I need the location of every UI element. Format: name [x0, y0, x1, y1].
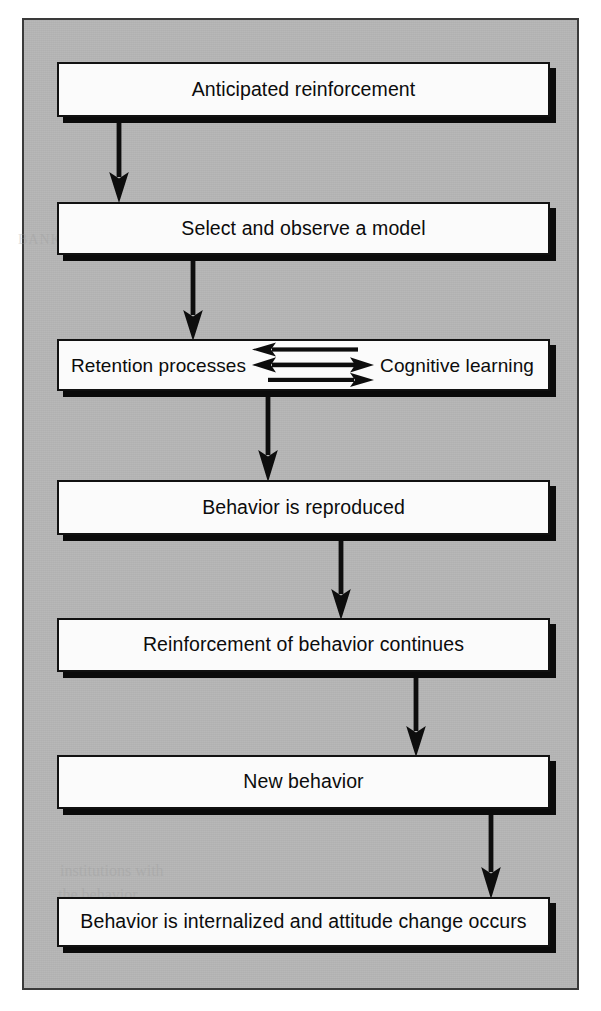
- node-label: Behavior is internalized and attitude ch…: [80, 912, 526, 932]
- node-retention-cognitive[interactable]: Retention processes: [57, 339, 550, 391]
- inner-arrow-top-icon: [252, 342, 358, 356]
- connector-5-arrow: [405, 670, 427, 757]
- node-label-cognitive-learning: Cognitive learning: [380, 356, 534, 375]
- connector-1-arrow: [108, 115, 130, 203]
- inner-arrow-bottom-icon: [268, 373, 374, 387]
- node-label: Reinforcement of behavior continues: [143, 635, 464, 655]
- node-label: New behavior: [243, 772, 363, 792]
- page-bleed-text: institutions with: [60, 862, 164, 880]
- node-behavior-is-internalized[interactable]: Behavior is internalized and attitude ch…: [57, 897, 550, 947]
- diagram-canvas: to the BANKING institutions with the beh…: [0, 0, 601, 1011]
- node-select-and-observe-a-model[interactable]: Select and observe a model: [57, 202, 550, 255]
- node-label: Anticipated reinforcement: [192, 80, 416, 100]
- node-behavior-is-reproduced[interactable]: Behavior is reproduced: [57, 480, 550, 535]
- connector-3-arrow: [257, 389, 279, 482]
- node-label: Select and observe a model: [181, 219, 425, 239]
- connector-6-arrow: [480, 807, 502, 899]
- node-label: Behavior is reproduced: [202, 498, 405, 518]
- node-reinforcement-of-behavior-continues[interactable]: Reinforcement of behavior continues: [57, 618, 550, 672]
- node-label-retention-processes: Retention processes: [71, 356, 246, 375]
- node-new-behavior[interactable]: New behavior: [57, 755, 550, 809]
- connector-4-arrow: [330, 533, 352, 620]
- inner-arrow-middle-icon: [252, 357, 374, 372]
- connector-2-arrow: [182, 253, 204, 341]
- bidirectional-arrow-cluster: [250, 342, 376, 388]
- diagram-frame: to the BANKING institutions with the beh…: [22, 18, 579, 990]
- node-anticipated-reinforcement[interactable]: Anticipated reinforcement: [57, 62, 550, 117]
